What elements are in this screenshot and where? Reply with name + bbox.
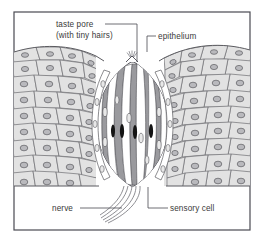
taste-bud <box>92 51 173 187</box>
epithelium-left <box>10 40 105 190</box>
taste-bud-diagram: taste pore (with tiny hairs) epithelium … <box>0 0 265 242</box>
epithelium-label: epithelium <box>158 32 196 41</box>
taste-pore-label-line1: taste pore <box>56 20 94 29</box>
figure-root: taste pore (with tiny hairs) epithelium … <box>0 0 265 242</box>
sensory-cell-label: sensory cell <box>170 204 215 213</box>
nerve-label: nerve <box>52 204 73 213</box>
epithelium-right <box>160 38 255 190</box>
taste-pore-label-line2: (with tiny hairs) <box>56 31 113 40</box>
